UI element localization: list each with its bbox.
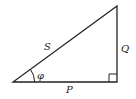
angle-label: φ xyxy=(37,70,44,81)
triangle xyxy=(13,6,117,82)
horizontal-side-label: P xyxy=(65,84,73,95)
right-angle-marker xyxy=(109,74,117,82)
angle-arc xyxy=(30,69,34,82)
vertical-side-label: Q xyxy=(121,43,129,54)
triangle-diagram: S Q P φ xyxy=(0,0,136,99)
hypotenuse-label: S xyxy=(44,41,51,52)
